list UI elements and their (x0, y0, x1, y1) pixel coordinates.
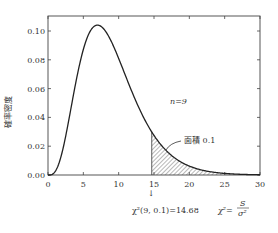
y-tick-label: 0.08 (27, 56, 45, 65)
y-axis-label: 確率密度 (3, 96, 13, 128)
formula-denominator: σ² (238, 209, 247, 218)
y-tick-label: 0.04 (27, 113, 45, 122)
x-tick-label: 5 (81, 180, 86, 189)
critical-value-label: χ²(9, 0.1)=14.68 (132, 206, 199, 215)
x-tick-label: 0 (45, 180, 50, 189)
x-tick-label: 30 (255, 180, 265, 189)
y-tick-label: 0.06 (27, 85, 45, 94)
formula-numerator: S (240, 199, 246, 208)
y-tick-label: 0.02 (27, 142, 45, 151)
arrow-icon: ↓ (148, 189, 155, 198)
x-tick-label: 10 (114, 180, 124, 189)
x-tick-label: 25 (220, 180, 230, 189)
y-tick-label: 0.00 (27, 171, 45, 180)
x-tick-label: 15 (149, 180, 159, 189)
x-tick-label: 20 (184, 180, 194, 189)
chart: 051015202530 0.000.020.040.060.080.10 確率… (0, 0, 278, 233)
n-label: n=9 (170, 97, 187, 106)
y-tick-label: 0.10 (27, 27, 45, 36)
area-label: 面積 0.1 (184, 135, 215, 145)
formula-lhs: χ²= (217, 206, 233, 215)
area-leader-line (166, 141, 181, 150)
y-axis: 0.000.020.040.060.080.10 (27, 27, 260, 180)
